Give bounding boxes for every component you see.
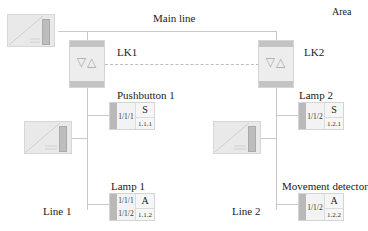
physical-address: 1.2.2 [325,209,343,222]
group-address: 1/1/1 [117,194,135,207]
line1-stub-pushbutton [87,115,110,116]
device-strip [110,103,117,129]
device-label-lamp-2: Lamp 2 [299,89,333,101]
device-label-movement-detector: Movement detector [282,180,368,192]
line1-bus [87,88,88,210]
physical-address: 1.1.2 [136,209,154,222]
line1-stub-psu [72,138,87,139]
power-supply-terminal [42,19,50,45]
group-address: 1/1/1 [117,110,135,123]
device-type: S [136,103,154,118]
line2-label: Line 2 [232,205,260,217]
device-label-lamp-1: Lamp 1 [111,180,145,192]
coupler-label-lk1: LK1 [117,46,137,58]
line2-power-supply [213,121,261,154]
main-line-label: Main line [153,12,195,24]
area-label: Area [332,6,351,17]
device-strip [299,103,306,129]
line-coupler-lk2[interactable]: ▽△ [258,40,294,88]
up-down-triangles-icon: ▽△ [259,55,293,69]
coupler-link-dashed [105,64,259,65]
device-strip [299,194,306,220]
line2-stub-psu [261,138,276,139]
line1-power-supply [24,121,72,154]
power-supply-icon [8,15,44,46]
device-type: A [325,194,343,209]
group-address: 1/1/2 [306,110,324,123]
line2-bus [276,88,277,210]
main-line [58,31,277,32]
device-movement-detector[interactable]: 1/1/2 A 1.2.2 [298,193,344,221]
line-coupler-lk1[interactable]: ▽△ [69,40,105,88]
main-line-drop-lk1 [87,31,88,40]
device-label-pushbutton-1: Pushbutton 1 [117,89,175,101]
device-type: S [325,103,343,118]
main-line-power-supply [7,14,55,47]
coupler-label-lk2: LK2 [304,46,324,58]
line2-stub-movement [276,204,299,205]
physical-address: 1.2.1 [325,118,343,131]
device-type: A [136,194,154,209]
line1-stub-lamp1 [87,204,110,205]
device-lamp-1[interactable]: 1/1/1 1/1/2 A 1.1.2 [109,193,155,221]
power-supply-icon [214,122,250,153]
device-pushbutton-1[interactable]: 1/1/1 S 1.1.1 [109,102,155,130]
physical-address: 1.1.1 [136,118,154,131]
device-lamp-2[interactable]: 1/1/2 S 1.2.1 [298,102,344,130]
line1-label: Line 1 [43,205,71,217]
power-supply-icon [25,122,61,153]
power-supply-terminal [248,126,256,152]
device-strip [110,194,117,220]
main-line-drop-lk2 [276,31,277,40]
up-down-triangles-icon: ▽△ [70,55,104,69]
power-supply-terminal [59,126,67,152]
line2-stub-lamp2 [276,115,299,116]
group-address: 1/1/2 [117,207,135,220]
group-address: 1/1/2 [306,201,324,214]
